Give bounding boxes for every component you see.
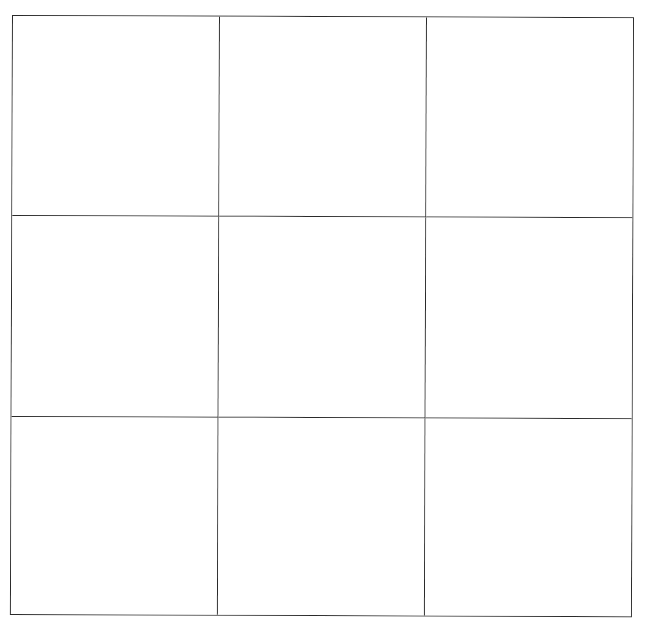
cell-r2-c2[interactable] (219, 217, 427, 419)
cell-r3-c1[interactable] (11, 417, 219, 615)
cell-r3-c2[interactable] (218, 418, 426, 616)
cell-r1-c1[interactable] (12, 16, 220, 217)
cell-r1-c2[interactable] (219, 17, 427, 218)
cell-r2-c1[interactable] (12, 216, 220, 418)
cell-r3-c3[interactable] (425, 418, 632, 616)
tic-tac-toe-board (10, 15, 634, 617)
cell-r2-c3[interactable] (426, 217, 633, 419)
game-stage (0, 0, 649, 630)
cell-r1-c3[interactable] (426, 17, 633, 218)
